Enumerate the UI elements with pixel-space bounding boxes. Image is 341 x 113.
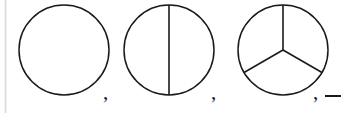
separator-comma-3: ,: [313, 82, 318, 103]
circle-three-parts-radius-lower-right: [283, 50, 322, 73]
separator-comma-1: ,: [103, 82, 108, 103]
circle-two-parts: [124, 5, 214, 95]
circle-sequence-diagram: [0, 0, 341, 113]
circle-one-part-outline: [19, 5, 109, 95]
figure-container: , , ,: [0, 0, 341, 113]
circle-three-parts-radius-lower-left: [244, 50, 283, 73]
separator-comma-2: ,: [211, 82, 216, 103]
trailing-dash-icon: [325, 95, 341, 97]
circle-one-part: [19, 5, 109, 95]
